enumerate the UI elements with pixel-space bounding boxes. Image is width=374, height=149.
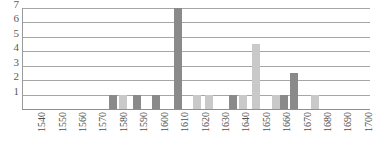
x-axis-tick-label: 1550 (58, 112, 68, 132)
gridline (23, 8, 370, 9)
gridline (23, 66, 370, 67)
bar (193, 95, 201, 109)
bar (272, 95, 280, 109)
bar (119, 95, 127, 109)
y-axis-tick-label: 1 (14, 86, 20, 97)
gridline (23, 80, 370, 81)
x-axis-tick-label: 1590 (139, 112, 149, 132)
x-axis-tick-label: 1640 (241, 112, 251, 132)
x-axis-tick-label: 1670 (303, 112, 313, 132)
gridline (23, 37, 370, 38)
x-axis-tick-label: 1660 (282, 112, 292, 132)
bar (133, 95, 141, 109)
y-axis-tick-label: 6 (14, 13, 20, 24)
y-axis-tick-label: 5 (14, 28, 20, 39)
x-axis-tick-label: 1680 (323, 112, 333, 132)
bar (229, 95, 237, 109)
y-axis-tick-label: 2 (14, 71, 20, 82)
y-axis-tick-label: 3 (14, 57, 20, 68)
bar (109, 95, 117, 109)
bar-chart: 1234567 15401550156015701580159016001610… (0, 0, 374, 149)
bar (252, 44, 260, 109)
gridline (23, 22, 370, 23)
bar (152, 95, 160, 109)
x-axis-tick-label: 1630 (221, 112, 231, 132)
x-axis-tick-label: 1610 (180, 112, 190, 132)
bar (280, 95, 288, 109)
y-axis-tick-label: 4 (14, 42, 20, 53)
x-axis-tick-label: 1540 (37, 112, 47, 132)
x-axis-tick-label: 1560 (78, 112, 88, 132)
plot-area (23, 8, 370, 109)
x-axis-tick-label: 1580 (119, 112, 129, 132)
y-axis: 1234567 (0, 0, 22, 110)
x-axis-tick-label: 1570 (98, 112, 108, 132)
x-axis-tick-label: 1690 (343, 112, 353, 132)
x-axis-tick-label: 1620 (201, 112, 211, 132)
bar (290, 73, 298, 109)
bar (174, 8, 182, 109)
y-axis-tick-label: 7 (14, 0, 20, 10)
x-axis-tick-label: 1650 (262, 112, 272, 132)
bar (205, 95, 213, 109)
x-axis: 1540155015601570158015901600161016201630… (23, 112, 370, 149)
gridline (23, 51, 370, 52)
bar (311, 95, 319, 109)
bar (239, 95, 247, 109)
x-axis-tick-label: 1700 (364, 112, 374, 132)
x-axis-line (22, 109, 370, 110)
x-axis-tick-label: 1600 (160, 112, 170, 132)
